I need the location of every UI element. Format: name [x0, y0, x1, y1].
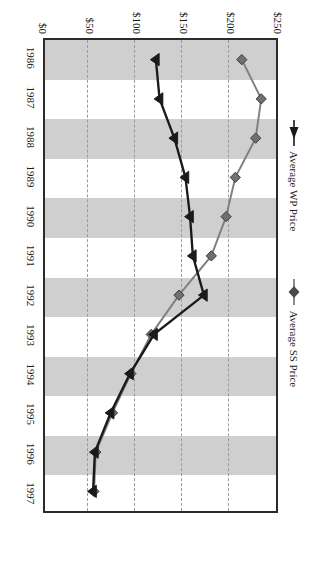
category-axis-tick-label: 1988: [25, 126, 37, 148]
category-axis-tick-label: 1994: [25, 363, 37, 385]
series-layer: [45, 40, 276, 511]
chart-rotation-wrapper: Average WP Price Average SS Price $250$2…: [0, 0, 309, 586]
data-point-marker: [150, 53, 159, 65]
data-point-marker: [251, 133, 261, 143]
value-axis-tick-label: $200: [225, 0, 237, 34]
value-axis-tick-label: $250: [272, 0, 284, 34]
category-axis-tick-label: 1996: [25, 443, 37, 465]
data-point-marker: [237, 54, 247, 64]
category-axis-tick-label: 1986: [25, 47, 37, 69]
category-axis-tick-label: 1997: [25, 482, 37, 504]
category-axis-tick-label: 1993: [25, 324, 37, 346]
value-axis-tick-label: $50: [84, 0, 96, 34]
data-point-marker: [88, 485, 97, 497]
value-axis-tick-label: $100: [131, 0, 143, 34]
category-axis-tick-label: 1995: [25, 403, 37, 425]
category-axis-tick-label: 1992: [25, 284, 37, 306]
series-line: [93, 60, 204, 492]
series-line: [94, 60, 261, 492]
category-axis-tick-label: 1989: [25, 166, 37, 188]
value-axis-tick-label: $0: [37, 0, 49, 34]
line-chart-figure: Average WP Price Average SS Price $250$2…: [0, 0, 309, 586]
category-axis-tick-label: 1990: [25, 205, 37, 227]
legend-label: Average SS Price: [288, 310, 300, 387]
data-point-marker: [256, 94, 266, 104]
legend-entry-average-wp-price: Average WP Price: [288, 120, 300, 231]
category-axis-tick-label: 1987: [25, 86, 37, 108]
legend-entry-average-ss-price: Average SS Price: [288, 279, 300, 387]
triangle-marker-icon: [288, 120, 300, 146]
legend-label: Average WP Price: [288, 151, 300, 231]
data-point-marker: [221, 211, 231, 221]
plot-area: [43, 38, 278, 513]
diamond-marker-icon: [288, 279, 300, 305]
chart-legend: Average WP Price Average SS Price: [283, 120, 305, 387]
category-axis-tick-label: 1991: [25, 245, 37, 267]
value-axis-tick-label: $150: [178, 0, 190, 34]
series-1: [89, 54, 266, 496]
data-point-marker: [230, 172, 240, 182]
